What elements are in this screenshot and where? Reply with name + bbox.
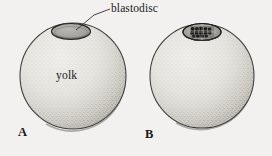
egg-b-group [150,24,254,130]
panel-label-a: A [18,126,27,139]
egg-a-blastodisc [52,24,91,40]
panel-label-b: B [145,128,153,141]
blastodisc-label: blastodisc [111,3,158,15]
yolk-label: yolk [56,70,77,82]
egg-illustration-svg [0,0,272,156]
egg-b-blastomeres [188,24,216,40]
egg-cleavage-figure: blastodisc yolk A B [0,0,272,156]
